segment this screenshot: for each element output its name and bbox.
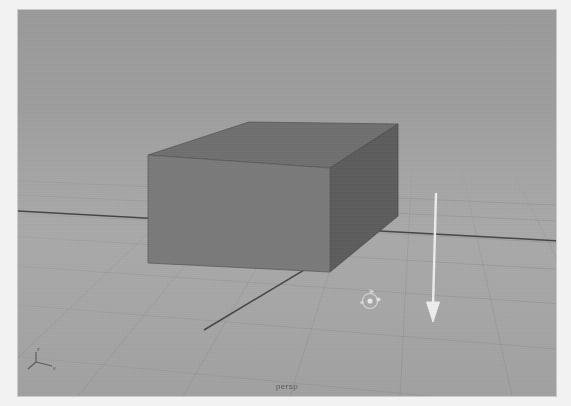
- down-arrow-annotation: [18, 10, 556, 396]
- perspective-viewport[interactable]: z x persp: [18, 10, 556, 396]
- axis-orientation-indicator: z x: [26, 344, 70, 378]
- app-window: z x persp: [0, 0, 571, 406]
- axis-indicator-label-x: x: [53, 365, 56, 371]
- viewport-label: persp: [18, 382, 556, 391]
- axis-indicator-label-z: z: [37, 346, 40, 352]
